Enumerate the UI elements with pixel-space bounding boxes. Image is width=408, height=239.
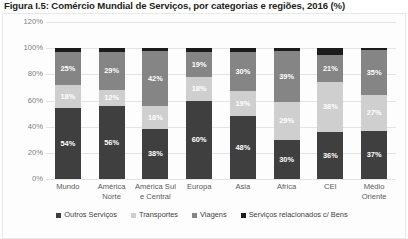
bar-value-label: 37%	[367, 151, 382, 158]
legend-item[interactable]: Viagens	[192, 211, 227, 219]
bar-segment[interactable]: 38%	[317, 82, 343, 132]
bar-value-label: 39%	[279, 73, 294, 80]
y-axis-tick-label: 60%	[3, 97, 43, 105]
bar-column[interactable]: 29%12%56%	[90, 22, 134, 179]
legend-label: Serviços relacionados c/ Bens	[249, 211, 348, 219]
stacked-bar[interactable]: 21%38%36%	[317, 48, 343, 179]
bar-value-label: 18%	[148, 114, 163, 121]
bar-value-label: 19%	[235, 100, 250, 107]
figure-title: Figura I.5: Comércio Mundial de Serviços…	[4, 0, 404, 13]
y-axis-tick-label: 80%	[3, 70, 43, 78]
bar-segment[interactable]: 39%	[274, 51, 300, 102]
y-axis-tick-label: 120%	[3, 18, 43, 26]
bar-value-label: 19%	[192, 61, 207, 68]
bar-value-label: 42%	[148, 75, 163, 82]
bar-value-label: 12%	[104, 94, 119, 101]
legend-label: Outros Serviços	[64, 211, 117, 219]
stacked-bar[interactable]: 42%18%38%	[142, 48, 168, 179]
bar-segment[interactable]: 37%	[361, 131, 387, 179]
bar-segment[interactable]: 36%	[317, 132, 343, 179]
bar-value-label: 38%	[148, 150, 163, 157]
bar-value-label: 29%	[104, 67, 119, 74]
legend-swatch-icon	[131, 213, 136, 218]
bar-segment[interactable]: 18%	[142, 106, 168, 130]
bar-segment[interactable]: 56%	[99, 106, 125, 179]
stacked-bar[interactable]: 29%12%56%	[99, 48, 125, 179]
bar-segment[interactable]: 18%	[55, 85, 81, 109]
bar-segment[interactable]: 19%	[186, 52, 212, 77]
bar-value-label: 30%	[235, 68, 250, 75]
bar-column[interactable]: 25%18%54%	[46, 22, 90, 179]
y-axis-tick-label: 20%	[3, 149, 43, 157]
bar-column[interactable]: 19%18%60%	[177, 22, 221, 179]
y-axis-tick-label: 40%	[3, 123, 43, 131]
bar-segment[interactable]: 38%	[142, 129, 168, 179]
bar-value-label: 54%	[60, 140, 75, 147]
y-axis-tick-label: 0%	[3, 175, 43, 183]
x-axis-tick-label: Europa	[177, 181, 221, 205]
bar-value-label: 48%	[235, 144, 250, 151]
legend-item[interactable]: Outros Serviços	[56, 211, 117, 219]
legend-swatch-icon	[241, 213, 246, 218]
bar-value-label: 36%	[323, 152, 338, 159]
bar-column[interactable]: 21%38%36%	[309, 22, 353, 179]
legend-item[interactable]: Serviços relacionados c/ Bens	[241, 211, 348, 219]
stacked-bar[interactable]: 25%18%54%	[55, 48, 81, 179]
bar-value-label: 25%	[60, 65, 75, 72]
bar-column[interactable]: 35%27%37%	[352, 22, 396, 179]
x-axis-tick-label: Mundo	[46, 181, 90, 205]
bar-column[interactable]: 39%29%30%	[265, 22, 309, 179]
bar-segment[interactable]: 29%	[274, 102, 300, 140]
bar-value-label: 60%	[192, 136, 207, 143]
bar-columns: 25%18%54%29%12%56%42%18%38%19%18%60%30%1…	[46, 22, 396, 179]
x-axis-tick-label: América Sule Central	[134, 181, 178, 205]
bar-segment[interactable]: 18%	[186, 77, 212, 101]
x-axis-tick-label: MédioOriente	[352, 181, 396, 205]
stacked-bar[interactable]: 35%27%37%	[361, 48, 387, 179]
bar-segment[interactable]: 54%	[55, 108, 81, 179]
legend-label: Viagens	[200, 211, 227, 219]
x-axis-tick-label: AméricaNorte	[90, 181, 134, 205]
gridline	[46, 179, 396, 180]
stacked-bar[interactable]: 39%29%30%	[274, 48, 300, 179]
x-axis-tick-label: CEI	[309, 181, 353, 205]
stacked-bar[interactable]: 30%19%48%	[230, 48, 256, 179]
y-axis: 0%20%40%60%80%100%120%	[0, 22, 43, 182]
bar-segment[interactable]: 42%	[142, 51, 168, 106]
bar-segment[interactable]: 12%	[99, 90, 125, 106]
bar-segment[interactable]: 21%	[317, 55, 343, 82]
bar-value-label: 56%	[104, 139, 119, 146]
bar-value-label: 18%	[192, 85, 207, 92]
bar-value-label: 18%	[60, 93, 75, 100]
bar-segment[interactable]: 30%	[274, 140, 300, 179]
bar-column[interactable]: 42%18%38%	[134, 22, 178, 179]
figure-container: Figura I.5: Comércio Mundial de Serviços…	[0, 0, 408, 239]
bar-value-label: 30%	[279, 156, 294, 163]
x-axis-labels: MundoAméricaNorteAmérica Sule CentralEur…	[46, 181, 396, 205]
bar-value-label: 29%	[279, 117, 294, 124]
bar-segment[interactable]: 35%	[361, 50, 387, 96]
x-axis-tick-label: Africa	[265, 181, 309, 205]
bar-value-label: 35%	[367, 69, 382, 76]
bar-segment[interactable]: 27%	[361, 95, 387, 130]
bar-segment[interactable]: 25%	[55, 52, 81, 85]
bar-segment[interactable]: 60%	[186, 101, 212, 180]
bar-segment[interactable]: 29%	[99, 52, 125, 90]
chart-legend: Outros ServiçosTransportesViagensServiço…	[0, 208, 404, 222]
bar-segment[interactable]: 30%	[230, 52, 256, 91]
stacked-bar[interactable]: 19%18%60%	[186, 48, 212, 179]
bar-value-label: 27%	[367, 109, 382, 116]
bar-value-label: 21%	[323, 65, 338, 72]
bar-segment[interactable]: 19%	[230, 91, 256, 116]
bar-segment[interactable]: 48%	[230, 116, 256, 179]
legend-item[interactable]: Transportes	[131, 211, 178, 219]
x-axis-tick-label: Asia	[221, 181, 265, 205]
legend-label: Transportes	[139, 211, 178, 219]
legend-swatch-icon	[192, 213, 197, 218]
bar-column[interactable]: 30%19%48%	[221, 22, 265, 179]
legend-swatch-icon	[56, 213, 61, 218]
y-axis-tick-label: 100%	[3, 44, 43, 52]
bar-value-label: 38%	[323, 103, 338, 110]
